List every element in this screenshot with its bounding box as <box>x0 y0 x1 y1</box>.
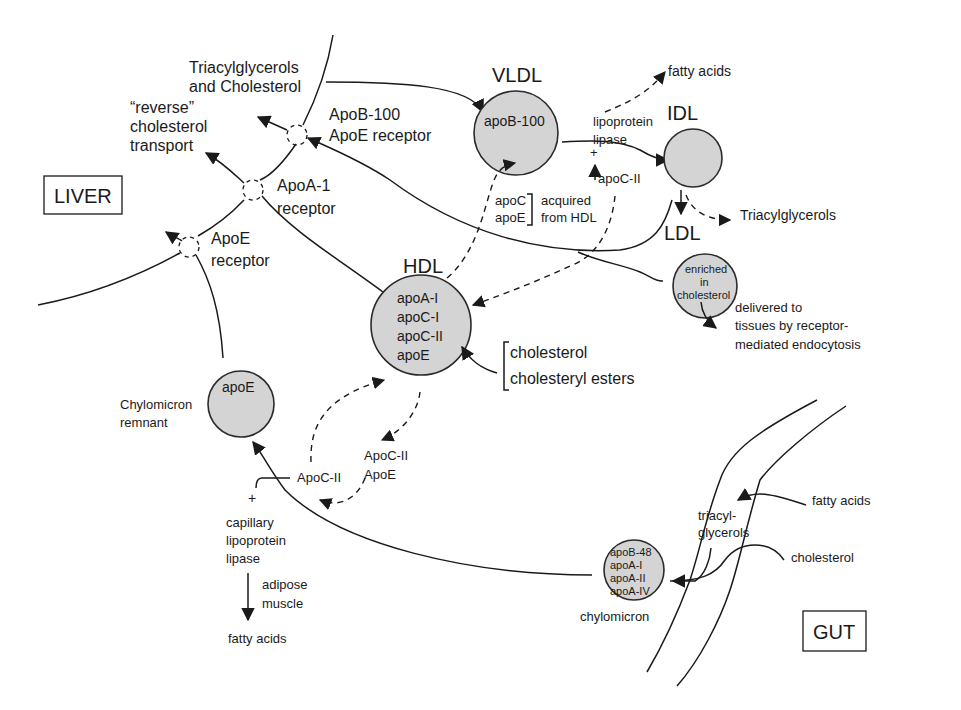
arrow-idl-triacylglycerols <box>686 195 730 220</box>
cholesterol-label: cholesterol <box>510 344 587 361</box>
arrow-fatty-acids-top <box>605 72 665 112</box>
arrow-into-liver-1 <box>258 117 287 130</box>
hdl-content-3: apoC-II <box>397 328 443 344</box>
apob-apoe-receptor-icon <box>287 125 307 145</box>
remnant-label-line2: remnant <box>120 415 168 430</box>
apoe-receptor-line2: receptor <box>211 252 270 269</box>
capillary-line1: capillary <box>226 515 274 530</box>
ldl-content-2: in <box>700 276 709 288</box>
lipoprotein-metabolism-diagram: LIVER Triacylglycerols and Cholesterol “… <box>0 0 961 710</box>
gut-label: GUT <box>813 621 855 643</box>
line-gut-cholesterol <box>670 545 784 581</box>
chylomicron-label: chylomicron <box>580 609 649 624</box>
chylomicron-content-3: apoA-II <box>610 572 645 584</box>
ldl-content-3: cholesterol <box>677 289 730 301</box>
vldl-particle: VLDL apoB-100 <box>474 64 558 175</box>
diagram-svg: LIVER Triacylglycerols and Cholesterol “… <box>0 0 961 710</box>
chylomicron-content-4: apoA-IV <box>610 585 650 597</box>
apoe-receptor-line1: ApoE <box>211 230 250 247</box>
adipose-label: adipose <box>262 577 308 592</box>
liver-label-box: LIVER <box>44 176 122 214</box>
ldl-connector <box>578 252 663 281</box>
apoa1-receptor-line1: ApoA-1 <box>277 177 330 194</box>
acquired-line2: from HDL <box>541 210 597 225</box>
tag-chol-line1: Triacylglycerols <box>189 59 299 76</box>
cholesteryl-esters-label: cholesteryl esters <box>510 370 635 387</box>
line-apoe-receptor-to-remnant <box>196 255 223 358</box>
ldl-content-1: enriched <box>685 263 727 275</box>
bracket-apoc-apoe <box>527 194 532 225</box>
line-apoc2-activator <box>256 478 290 488</box>
delivered-line2: tissues by receptor- <box>735 318 848 333</box>
hdl-content-2: apoC-I <box>397 309 439 325</box>
apob-receptor-line1: ApoB-100 <box>329 106 400 123</box>
fatty-acids-gut: fatty acids <box>812 493 871 508</box>
reverse-transport-line2: cholesterol <box>130 118 207 135</box>
triacylglycerols-gut-line2: glycerols <box>698 525 750 540</box>
liver-label: LIVER <box>54 185 112 207</box>
lipase-line2: lipase <box>593 132 627 147</box>
apoe-receptor-icon <box>179 237 199 257</box>
remnant-content: apoE <box>222 379 255 395</box>
plus-top: + <box>590 145 598 160</box>
apoc-label: apoC <box>495 193 526 208</box>
apoa1-receptor-line2: receptor <box>277 200 336 217</box>
apob-receptor-line2: ApoE receptor <box>329 127 432 144</box>
arrow-hdl-release-apoc2 <box>382 392 420 440</box>
delivered-line3: mediated endocytosis <box>735 337 861 352</box>
hdl-particle: HDL apoA-I apoC-I apoC-II apoE <box>371 255 471 375</box>
apoe-label: apoE <box>495 210 526 225</box>
hdl-content-1: apoA-I <box>397 290 438 306</box>
apoa1-receptor-icon <box>243 180 263 200</box>
triacylglycerols-gut-line1: triacyl- <box>698 508 736 523</box>
triacylglycerols-right: Triacylglycerols <box>740 207 836 223</box>
chylomicron-particle: apoB-48 apoA-I apoA-II apoA-IV <box>604 540 664 600</box>
chylomicron-content-2: apoA-I <box>610 559 642 571</box>
plus-bottom: + <box>248 490 256 506</box>
arrow-gut-fatty-acids <box>738 494 806 505</box>
arrow-chylomicron-to-remnant <box>253 442 592 575</box>
lipase-line1: lipoprotein <box>593 114 653 129</box>
bracket-cholesterol <box>504 342 509 390</box>
capillary-line2: lipoprotein <box>226 533 286 548</box>
fatty-acids-bottom: fatty acids <box>228 631 287 646</box>
chylomicron-content-1: apoB-48 <box>610 546 652 558</box>
apoc2-apoe-line1: ApoC-II <box>364 448 408 463</box>
apoc2-apoe-line2: ApoE <box>364 467 396 482</box>
chylomicron-remnant-particle: apoE <box>208 371 274 437</box>
fatty-acids-top: fatty acids <box>668 63 731 79</box>
cholesterol-gut: cholesterol <box>791 550 854 565</box>
apoc2-top: apoC-II <box>598 171 641 186</box>
ldl-label: LDL <box>664 222 701 244</box>
idl-particle: IDL <box>664 102 722 187</box>
arrow-into-liver-3 <box>166 232 182 241</box>
idl-label: IDL <box>667 102 698 124</box>
arrow-cholesterol-to-hdl <box>462 347 497 373</box>
arrow-into-liver-2 <box>206 153 244 183</box>
reverse-transport-line1: “reverse” <box>130 99 194 116</box>
capillary-line3: lipase <box>226 551 260 566</box>
reverse-transport-line3: transport <box>130 137 194 154</box>
hdl-content-4: apoE <box>397 347 430 363</box>
delivered-line1: delivered to <box>735 300 802 315</box>
muscle-label: muscle <box>262 596 303 611</box>
remnant-label-line1: Chylomicron <box>120 397 192 412</box>
apoc2-left: ApoC-II <box>297 470 341 485</box>
vldl-label: VLDL <box>492 64 542 86</box>
tag-chol-line2: and Cholesterol <box>189 78 301 95</box>
hdl-label: HDL <box>403 255 443 277</box>
vldl-content: apoB-100 <box>484 113 545 129</box>
acquired-line1: acquired <box>541 193 591 208</box>
gut-label-box: GUT <box>803 611 866 651</box>
